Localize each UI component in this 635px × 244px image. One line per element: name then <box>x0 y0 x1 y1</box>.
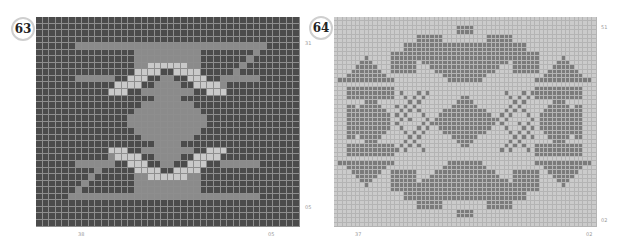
chart-cell <box>82 220 89 227</box>
chart-cell <box>56 220 63 227</box>
chart-row-stitch-label: 31 <box>305 40 311 46</box>
chart-cell <box>194 220 201 227</box>
chart-cell <box>234 220 241 227</box>
chart-cell <box>293 220 300 227</box>
chart-cell <box>280 220 287 227</box>
chart-row-stitch-label: 05 <box>305 204 311 210</box>
chart-cell <box>43 220 50 227</box>
chart-cell <box>128 220 135 227</box>
chart-cell <box>69 220 76 227</box>
chart-cell <box>247 220 254 227</box>
chart-cell <box>227 220 234 227</box>
chart-row-stitch-label: 38 <box>78 231 84 237</box>
chart-row-stitch-label: 51 <box>601 24 607 30</box>
chart-cell <box>592 223 596 227</box>
chart-cell <box>89 220 96 227</box>
chart-cell <box>221 220 228 227</box>
chart-cell <box>254 220 261 227</box>
chart-cell <box>273 220 280 227</box>
chart-cell <box>168 220 175 227</box>
chart-cell <box>36 220 43 227</box>
chart-cell <box>109 220 116 227</box>
chart-cell <box>148 220 155 227</box>
chart-cell <box>174 220 181 227</box>
knitting-chart-grid <box>36 17 300 227</box>
chart-cell <box>62 220 69 227</box>
chart-cell <box>214 220 221 227</box>
chart-cell <box>95 220 102 227</box>
chart-number-badge: 64 <box>309 16 333 40</box>
chart-row-stitch-label: 02 <box>601 217 607 223</box>
chart-row-stitch-label: 02 <box>586 231 592 237</box>
chart-cell <box>76 220 83 227</box>
chart-row-stitch-label: 05 <box>268 231 274 237</box>
chart-cell <box>49 220 56 227</box>
chart-cell <box>240 220 247 227</box>
chart-cell <box>267 220 274 227</box>
chart-cell <box>260 220 267 227</box>
chart-cell <box>161 220 168 227</box>
chart-cell <box>155 220 162 227</box>
chart-cell <box>181 220 188 227</box>
chart-number-badge: 63 <box>11 17 35 41</box>
chart-row-stitch-label: 37 <box>355 231 361 237</box>
knitting-chart-grid <box>334 17 597 227</box>
chart-cell <box>115 220 122 227</box>
chart-cell <box>135 220 142 227</box>
chart-cell <box>201 220 208 227</box>
chart-cell <box>188 220 195 227</box>
chart-cell <box>102 220 109 227</box>
chart-cell <box>287 220 294 227</box>
chart-cell <box>207 220 214 227</box>
chart-cell <box>142 220 149 227</box>
chart-cell <box>122 220 129 227</box>
